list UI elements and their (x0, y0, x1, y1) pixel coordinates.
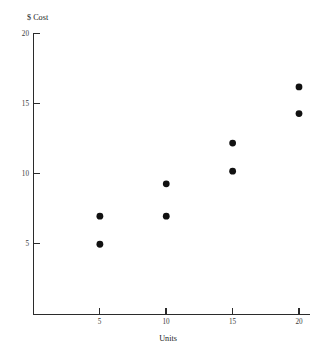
y-tick-label-10: 10 (22, 170, 30, 178)
plot-canvas: $ Cost 20 15 10 5 5 10 15 20 (0, 0, 331, 352)
x-tick-label-5: 5 (98, 318, 102, 326)
data-point-series (96, 83, 302, 247)
data-point (229, 168, 236, 175)
data-point (296, 110, 303, 117)
y-tick-label-5: 5 (25, 240, 29, 248)
data-point (163, 213, 170, 220)
y-axis-title: $ Cost (27, 13, 49, 22)
data-point (296, 83, 303, 90)
data-point (96, 241, 103, 248)
y-tick-label-15: 15 (22, 100, 30, 108)
x-axis-title: Units (159, 334, 177, 343)
y-tick-label-20: 20 (22, 30, 30, 38)
scatter-plot-figure: $ Cost 20 15 10 5 5 10 15 20 (0, 0, 331, 352)
x-tick-label-15: 15 (229, 318, 237, 326)
y-axis-ticks: 20 15 10 5 (22, 30, 40, 248)
axis-lines (34, 33, 311, 315)
data-point (163, 180, 170, 187)
x-tick-label-10: 10 (162, 318, 170, 326)
data-point (96, 213, 103, 220)
x-axis-ticks: 5 10 15 20 (98, 308, 303, 326)
data-point (229, 140, 236, 147)
x-tick-label-20: 20 (295, 318, 303, 326)
